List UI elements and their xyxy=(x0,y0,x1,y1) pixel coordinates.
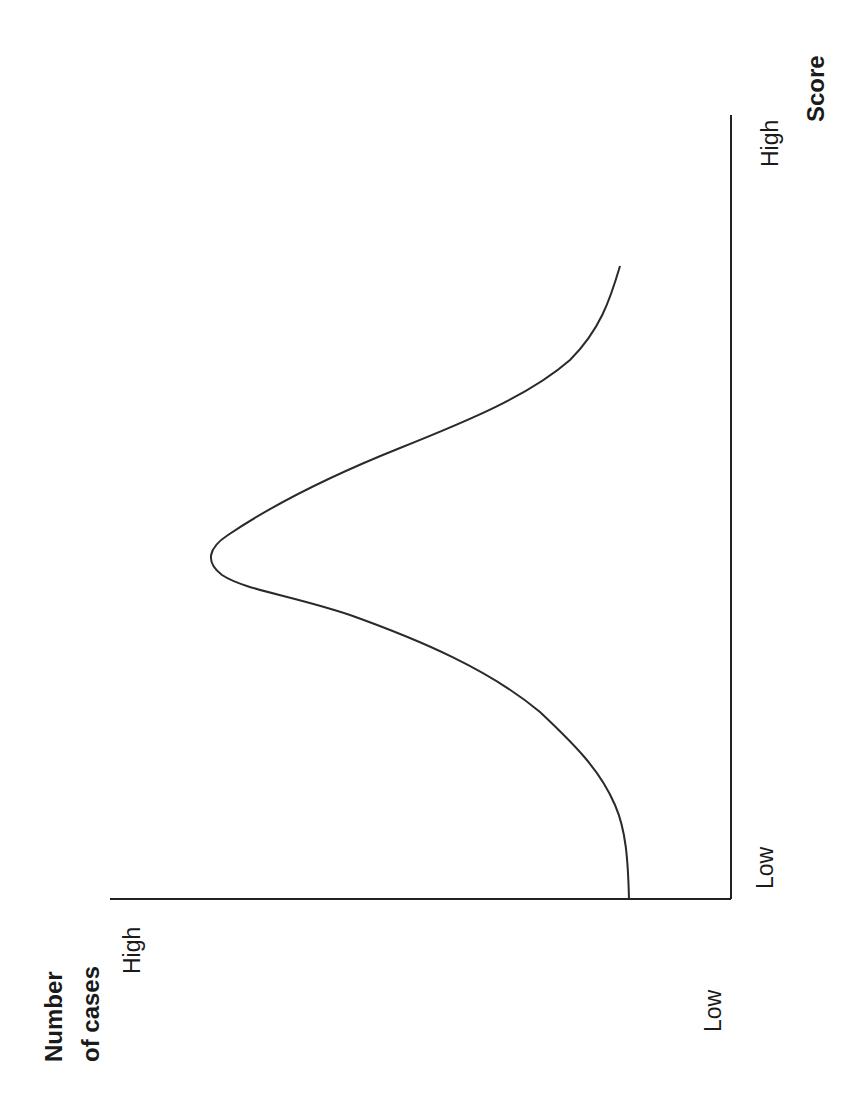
y-axis-title-line2: of cases xyxy=(79,966,103,1062)
distribution-curve xyxy=(211,266,629,899)
y-tick-high: High xyxy=(121,927,144,974)
x-tick-high: High xyxy=(759,120,782,167)
y-tick-low: Low xyxy=(702,990,725,1032)
x-axis-title: Score xyxy=(804,55,828,122)
x-tick-low: Low xyxy=(754,847,777,889)
y-axis-title-line1: Number xyxy=(42,971,66,1062)
